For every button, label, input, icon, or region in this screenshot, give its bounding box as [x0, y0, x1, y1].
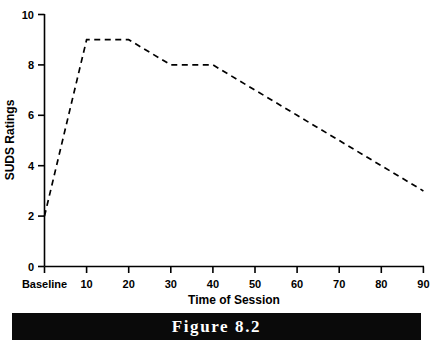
suds-data-line — [45, 40, 424, 216]
y-axis-title: SUDS Ratings — [3, 99, 17, 180]
x-tick-label-baseline: Baseline — [22, 278, 67, 290]
x-tick-label-20: 20 — [123, 278, 135, 290]
y-tick-label-2: 2 — [28, 210, 34, 222]
chart-axes — [45, 14, 425, 267]
x-tick-label-30: 30 — [165, 278, 177, 290]
x-tick-label-90: 90 — [417, 278, 429, 290]
y-axis-tick-labels: 10 8 6 4 2 0 — [22, 9, 35, 273]
x-tick-label-70: 70 — [333, 278, 345, 290]
suds-ratings-line-chart: 10 8 6 4 2 0 Baseline 10 20 30 40 — [0, 0, 434, 310]
figure-caption-text: Figure 8.2 — [172, 318, 261, 335]
x-axis-ticks — [45, 267, 424, 274]
y-tick-label-6: 6 — [28, 109, 34, 121]
x-tick-label-10: 10 — [80, 278, 92, 290]
x-axis-tick-labels: Baseline 10 20 30 40 50 60 70 80 90 — [22, 278, 430, 290]
y-tick-label-4: 4 — [28, 160, 35, 172]
x-tick-label-80: 80 — [375, 278, 387, 290]
x-tick-label-60: 60 — [291, 278, 303, 290]
y-tick-label-10: 10 — [22, 9, 34, 21]
y-tick-label-0: 0 — [28, 261, 34, 273]
y-axis-ticks — [38, 15, 45, 267]
x-tick-label-50: 50 — [249, 278, 261, 290]
x-axis-title: Time of Session — [188, 293, 280, 307]
figure-caption-banner: Figure 8.2 — [12, 313, 421, 340]
y-tick-label-8: 8 — [28, 59, 34, 71]
x-tick-label-40: 40 — [207, 278, 219, 290]
figure-8-2: 10 8 6 4 2 0 Baseline 10 20 30 40 — [0, 0, 434, 344]
